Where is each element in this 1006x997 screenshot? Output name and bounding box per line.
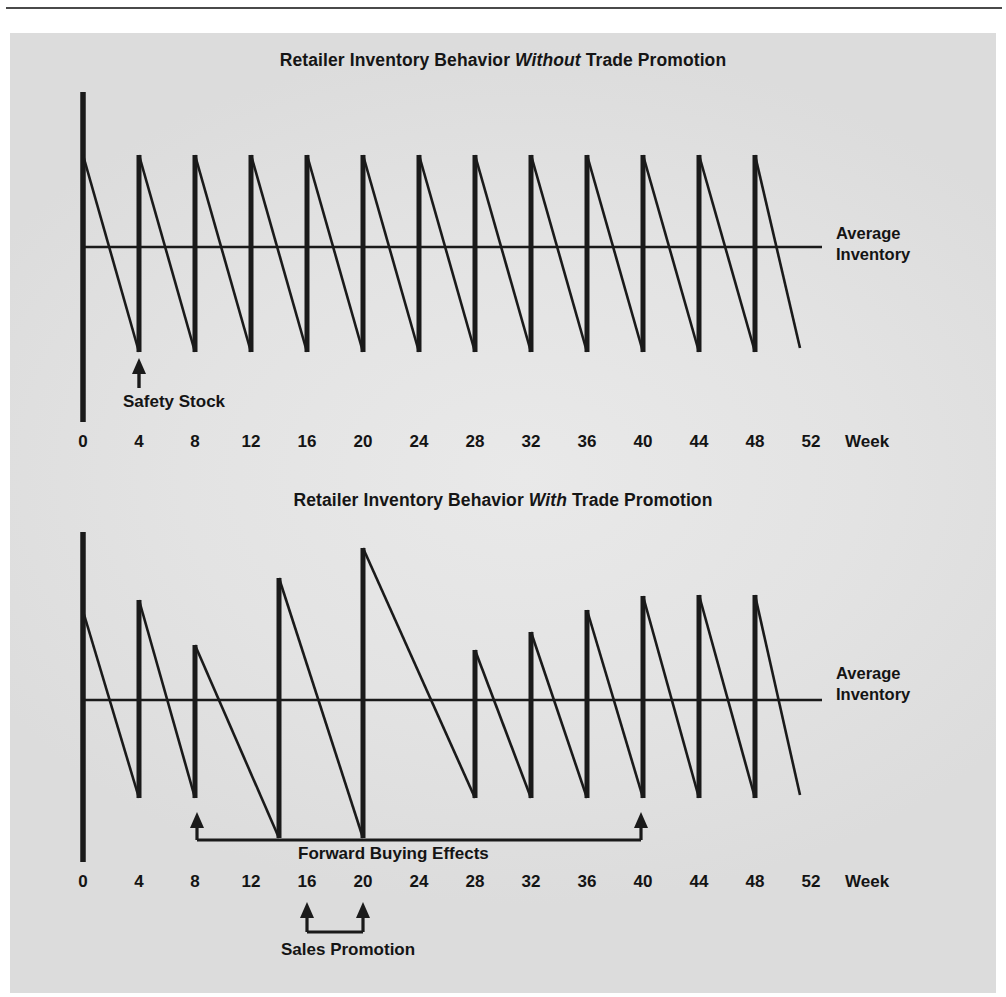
x-axis-ticks-bottom: 0 4 8 12 16 20 24 28 32 36 40 44 48 52 W… <box>0 872 1006 896</box>
x-tick-52-bottom: 52 <box>802 872 821 892</box>
x-tick-12-bottom: 12 <box>242 872 261 892</box>
x-tick-4-bottom: 4 <box>134 872 143 892</box>
x-tick-36-bottom: 36 <box>578 872 597 892</box>
x-tick-0-bottom: 0 <box>78 872 87 892</box>
sales-promotion-bracket <box>300 902 370 932</box>
x-tick-8-bottom: 8 <box>190 872 199 892</box>
x-axis-name-bottom: Week <box>845 872 889 892</box>
chart-plot-with-promotion <box>0 0 1006 997</box>
x-tick-16-bottom: 16 <box>298 872 317 892</box>
x-tick-44-bottom: 44 <box>690 872 709 892</box>
sawtooth-replenishments-bottom <box>139 548 755 838</box>
x-tick-28-bottom: 28 <box>466 872 485 892</box>
x-tick-40-bottom: 40 <box>634 872 653 892</box>
average-inventory-label-bottom-line1: Average <box>836 663 910 684</box>
average-inventory-label-bottom: Average Inventory <box>836 663 910 705</box>
figure-root: Retailer Inventory Behavior Without Trad… <box>0 0 1006 997</box>
x-tick-24-bottom: 24 <box>410 872 429 892</box>
x-tick-20-bottom: 20 <box>354 872 373 892</box>
x-tick-32-bottom: 32 <box>522 872 541 892</box>
average-inventory-label-bottom-line2: Inventory <box>836 684 910 705</box>
sawtooth-declines-bottom <box>83 548 800 838</box>
forward-buying-effects-label: Forward Buying Effects <box>298 844 489 864</box>
forward-buying-bracket <box>190 812 648 840</box>
sales-promotion-label: Sales Promotion <box>281 940 415 960</box>
x-tick-48-bottom: 48 <box>746 872 765 892</box>
